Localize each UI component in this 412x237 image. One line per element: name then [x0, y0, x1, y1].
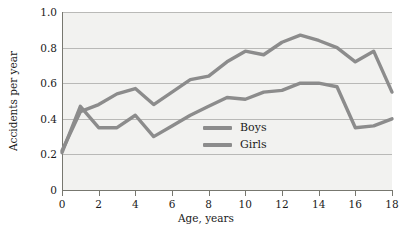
legend-swatch-icon — [203, 143, 232, 147]
legend-label: Girls — [240, 139, 267, 150]
x-tick — [245, 190, 246, 196]
x-tick — [355, 190, 356, 196]
x-tick — [392, 190, 393, 196]
y-tick-label: 0.2 — [40, 148, 57, 160]
x-tick — [172, 190, 173, 196]
x-tick — [99, 190, 100, 196]
x-tick-label: 12 — [275, 198, 288, 210]
accidents-per-year-line-chart: 1.0 0.8 0.6 0.4 0.2 0 0 2 4 6 8 10 12 14… — [0, 0, 412, 237]
x-tick-label: 0 — [59, 198, 66, 210]
x-axis-line — [62, 190, 393, 191]
x-tick-label: 2 — [95, 198, 102, 210]
y-tick-label: 0.4 — [40, 113, 57, 125]
y-tick-label: 0.6 — [40, 77, 57, 89]
x-tick — [135, 190, 136, 196]
x-tick — [209, 190, 210, 196]
x-tick — [319, 190, 320, 196]
x-tick-label: 8 — [205, 198, 212, 210]
x-tick-label: 10 — [239, 198, 252, 210]
y-tick-label: 1.0 — [40, 6, 57, 18]
legend-swatch-icon — [203, 126, 232, 130]
y-tick-label: 0 — [50, 184, 57, 196]
legend-item-boys: Boys — [203, 122, 267, 133]
legend-item-girls: Girls — [203, 139, 267, 150]
y-axis-title: Accidents per year — [7, 36, 19, 166]
x-tick-label: 4 — [132, 198, 139, 210]
series-layer — [62, 12, 392, 190]
x-axis-title: Age, years — [0, 212, 412, 224]
x-tick — [282, 190, 283, 196]
legend-label: Boys — [240, 122, 267, 133]
y-tick-label: 0.8 — [40, 42, 57, 54]
x-tick-label: 18 — [385, 198, 398, 210]
x-tick-label: 6 — [169, 198, 176, 210]
x-tick-label: 14 — [312, 198, 325, 210]
x-tick-label: 16 — [349, 198, 362, 210]
x-tick — [62, 190, 63, 196]
legend: Boys Girls — [203, 122, 267, 150]
